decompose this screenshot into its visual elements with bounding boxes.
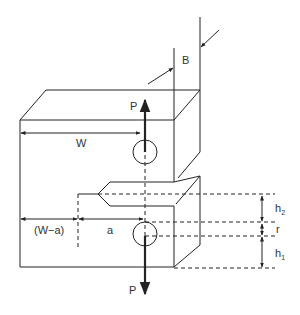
width-label: W <box>76 137 87 149</box>
load-top-label: P <box>130 100 137 112</box>
ligament-label: (W−a) <box>34 224 64 236</box>
h2-label: h2 <box>275 202 285 216</box>
crack-length-label: a <box>107 224 114 236</box>
load-bottom-label: P <box>129 284 136 296</box>
radius-label: r <box>276 223 280 235</box>
specimen-diagram: B W P P (W−a) a h2 r h1 <box>0 0 300 315</box>
h1-label: h1 <box>275 247 285 261</box>
thickness-label: B <box>182 54 189 66</box>
reference-lines <box>78 120 275 268</box>
